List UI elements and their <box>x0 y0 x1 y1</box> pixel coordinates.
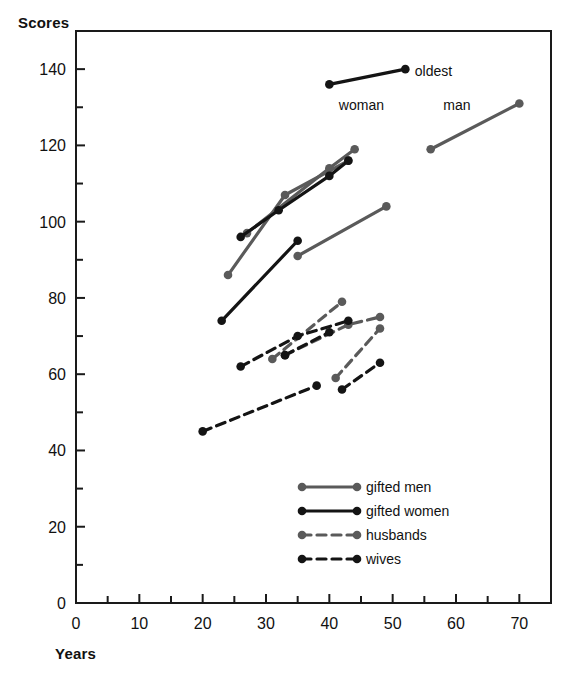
legend-swatch-marker <box>353 507 362 516</box>
data-point <box>198 427 207 436</box>
data-point <box>224 271 233 280</box>
y-tick-label: 80 <box>48 290 66 307</box>
data-point <box>236 362 245 371</box>
annotation-label: woman <box>338 97 384 113</box>
data-point <box>293 236 302 245</box>
data-point <box>281 191 290 200</box>
data-point <box>325 80 334 89</box>
data-point <box>338 297 347 306</box>
x-tick-label: 50 <box>384 615 402 632</box>
x-tick-label: 10 <box>130 615 148 632</box>
data-point <box>325 328 334 337</box>
y-tick-label: 60 <box>48 366 66 383</box>
y-tick-label: 100 <box>39 214 66 231</box>
x-tick-label: 60 <box>447 615 465 632</box>
x-tick-label: 70 <box>510 615 528 632</box>
data-point <box>312 381 321 390</box>
data-point <box>281 351 290 360</box>
axis-tick-labels: 020406080100120140010203040506070 <box>39 61 528 632</box>
data-point <box>376 313 385 322</box>
data-point <box>401 65 410 74</box>
legend-swatch-marker <box>353 555 362 564</box>
legend-swatch-marker <box>298 555 307 564</box>
data-point <box>236 233 245 242</box>
legend-swatch-marker <box>353 531 362 540</box>
series-wives <box>198 317 384 436</box>
series-line <box>241 161 349 237</box>
legend-swatch-marker <box>353 483 362 492</box>
legend-label: gifted men <box>366 479 431 495</box>
data-point <box>344 317 353 326</box>
data-point <box>293 332 302 341</box>
data-point <box>382 202 391 211</box>
legend-swatch-marker <box>298 507 307 516</box>
y-tick-label: 20 <box>48 519 66 536</box>
series-gifted-men <box>224 99 524 279</box>
annotation-label: man <box>443 97 470 113</box>
y-tick-label: 140 <box>39 61 66 78</box>
data-point <box>515 99 524 108</box>
data-point <box>293 252 302 261</box>
legend-label: wives <box>365 551 401 567</box>
data-point <box>268 355 277 364</box>
x-tick-label: 40 <box>320 615 338 632</box>
data-point <box>376 358 385 367</box>
data-point <box>274 206 283 215</box>
x-tick-label: 30 <box>257 615 275 632</box>
chart-figure: Scores Years 020406080100120140010203040… <box>0 0 581 686</box>
legend: gifted mengifted womenhusbandswives <box>298 479 450 567</box>
x-tick-label: 20 <box>194 615 212 632</box>
data-point <box>338 385 347 394</box>
series-husbands <box>268 297 384 382</box>
plot-canvas: 020406080100120140010203040506070 oldest… <box>0 0 581 686</box>
x-tick-label: 0 <box>72 615 81 632</box>
data-point <box>344 156 353 165</box>
data-point <box>426 145 435 154</box>
series-line <box>329 69 405 84</box>
y-tick-label: 40 <box>48 442 66 459</box>
y-tick-label: 120 <box>39 137 66 154</box>
plot-frame <box>76 31 551 603</box>
series-line <box>241 321 349 367</box>
y-tick-label: 0 <box>57 595 66 612</box>
series-line <box>298 206 387 256</box>
series-line <box>222 241 298 321</box>
legend-swatch-marker <box>298 531 307 540</box>
data-point <box>325 172 334 181</box>
legend-label: husbands <box>366 527 427 543</box>
series-line <box>336 328 380 378</box>
data-series <box>198 65 523 436</box>
legend-label: gifted women <box>366 503 449 519</box>
data-point <box>350 145 359 154</box>
data-point <box>376 324 385 333</box>
annotation-label: oldest <box>415 63 452 79</box>
data-point <box>331 374 340 383</box>
data-point <box>217 317 226 326</box>
series-line <box>203 386 317 432</box>
legend-swatch-marker <box>298 483 307 492</box>
